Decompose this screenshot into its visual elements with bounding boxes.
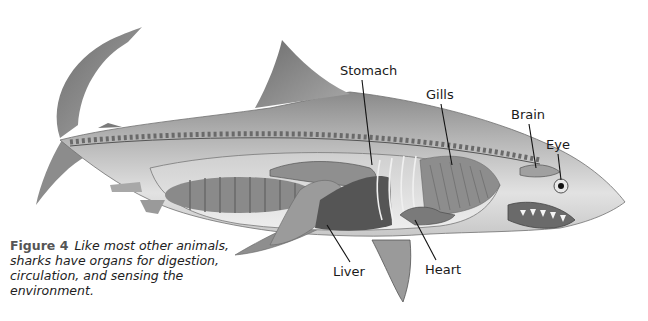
figure-caption: Figure 4Like most other animals, sharks … — [10, 238, 250, 298]
label-stomach: Stomach — [340, 63, 397, 78]
second-dorsal-fin — [98, 123, 122, 128]
pelvic-small-fin — [140, 200, 165, 214]
pelvic-fin — [372, 240, 411, 302]
label-eye: Eye — [546, 137, 570, 152]
figure-number: Figure 4 — [10, 238, 68, 253]
anal-fin — [110, 182, 142, 192]
caudal-fin — [57, 27, 142, 138]
label-gills: Gills — [426, 87, 454, 102]
label-brain: Brain — [511, 107, 545, 122]
label-liver: Liver — [333, 264, 365, 279]
label-heart: Heart — [425, 262, 461, 277]
